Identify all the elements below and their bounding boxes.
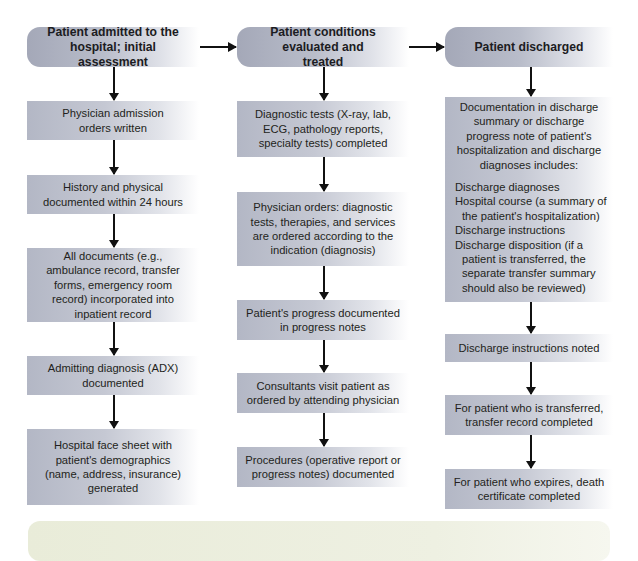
step-label: All documents (e.g., ambulance record, t… [37,249,190,321]
step-face-sheet: Hospital face sheet with patient's demog… [27,429,199,505]
step-admission-orders: Physician admission orders written [27,101,199,140]
arrow-down-icon [530,302,532,333]
step-label: For patient who expires, death certifica… [445,475,613,504]
arrow-down-icon [113,67,115,100]
step-consultants-visit: Consultants visit patient as ordered by … [237,373,409,413]
arrow-down-icon [113,214,115,247]
step-transfer-record: For patient who is transferred, transfer… [445,395,613,435]
step-history-physical: History and physical documented within 2… [27,175,199,214]
step-label: Diagnostic tests (X-ray, lab, ECG, patho… [245,107,401,150]
step-physician-orders: Physician orders: diagnostic tests, ther… [237,192,409,266]
header-discharged: Patient discharged [445,27,613,67]
arrow-down-icon [323,340,325,372]
arrow-down-icon [323,157,325,191]
step-label: History and physical documented within 2… [34,180,192,209]
step-discharge-instructions-noted: Discharge instructions noted [445,334,613,362]
header-admitted: Patient admitted to the hospital; initia… [27,27,199,67]
step-label: Consultants visit patient as ordered by … [237,379,409,408]
step-label: Physician admission orders written [50,106,176,135]
arrow-down-icon [323,67,325,100]
list-item: Discharge instructions [455,223,609,237]
header-evaluated-label: Patient conditions evaluated and treated [261,25,386,70]
step-label: Hospital face sheet with patient's demog… [37,438,190,496]
step-progress-notes: Patient's progress documented in progres… [237,300,409,340]
arrow-down-icon [113,140,115,174]
arrow-right-icon [200,46,236,48]
step-label: Discharge instructions noted [454,341,603,355]
step-label: Admitting diagnosis (ADX) documented [34,361,192,390]
footer-panel [28,521,610,561]
arrow-down-icon [530,435,532,468]
step-admitting-diagnosis: Admitting diagnosis (ADX) documented [27,356,199,395]
step-label: Procedures (operative report or progress… [237,453,409,482]
arrow-down-icon [323,413,325,446]
step-death-certificate: For patient who expires, death certifica… [445,469,613,509]
step-label: Patient's progress documented in progres… [237,306,409,335]
discharge-doc-items: Discharge diagnoses Hospital course (a s… [445,180,613,295]
header-admitted-label: Patient admitted to the hospital; initia… [38,25,188,70]
header-discharged-label: Patient discharged [474,40,583,55]
arrow-down-icon [323,266,325,299]
arrow-down-icon [113,395,115,428]
list-item: Hospital course (a summary of the patien… [455,194,609,223]
step-diagnostic-tests: Diagnostic tests (X-ray, lab, ECG, patho… [237,101,409,157]
arrow-down-icon [530,362,532,394]
arrow-down-icon [113,322,115,355]
step-label: Physician orders: diagnostic tests, ther… [239,200,407,258]
list-item: Discharge disposition (if a patient is t… [455,238,609,296]
step-procedures: Procedures (operative report or progress… [237,447,409,487]
header-evaluated: Patient conditions evaluated and treated [237,27,409,67]
step-label: For patient who is transferred, transfer… [445,401,613,430]
arrow-down-icon [530,67,532,96]
discharge-doc-intro: Documentation in discharge summary or di… [445,100,613,172]
arrow-right-icon [409,46,444,48]
list-item: Discharge diagnoses [455,180,609,194]
step-all-documents: All documents (e.g., ambulance record, t… [27,248,199,322]
step-discharge-documentation: Documentation in discharge summary or di… [445,97,613,302]
